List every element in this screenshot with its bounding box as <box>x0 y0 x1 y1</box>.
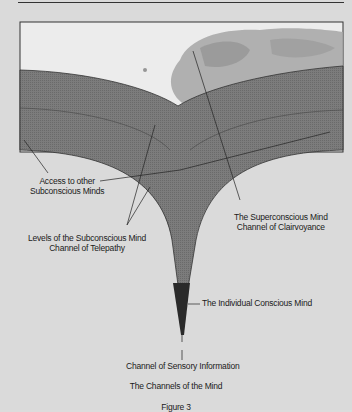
label-levels-line1: Levels of the Subconscious Mind <box>28 233 146 243</box>
label-access-line2: Subconscious Minds <box>30 186 104 196</box>
figure-title: The Channels of the Mind <box>0 381 352 391</box>
label-sensory: Channel of Sensory Information <box>126 361 240 371</box>
conscious-mind-wedge <box>173 283 190 335</box>
label-access-line1: Access to other <box>30 176 104 186</box>
label-superconscious: The Superconscious Mind Channel of Clair… <box>234 212 328 232</box>
label-superconscious-line1: The Superconscious Mind <box>234 212 328 222</box>
figure-number: Figure 3 <box>0 402 352 412</box>
label-levels-line2: Channel of Telepathy <box>28 243 146 253</box>
label-levels: Levels of the Subconscious Mind Channel … <box>28 233 146 253</box>
label-conscious: The Individual Conscious Mind <box>202 298 312 308</box>
label-access: Access to other Subconscious Minds <box>30 176 104 196</box>
label-superconscious-line2: Channel of Clairvoyance <box>234 222 328 232</box>
